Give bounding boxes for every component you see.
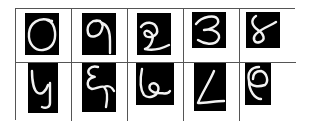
digit-cell — [184, 9, 240, 63]
digit-cell — [128, 63, 184, 121]
digit-cell — [128, 9, 184, 63]
digit-grid — [15, 8, 295, 120]
digit-cell — [184, 63, 240, 121]
digit-image-6 — [136, 63, 174, 105]
digit-cell — [16, 63, 72, 121]
digit-cell — [240, 9, 296, 63]
digit-cell — [72, 63, 128, 121]
digit-image-2 — [137, 13, 171, 55]
digit-image-3 — [192, 12, 226, 48]
digit-cell — [240, 63, 296, 121]
digit-image-8 — [246, 12, 280, 48]
digit-cell — [16, 9, 72, 63]
digit-image-4 — [28, 63, 58, 113]
digit-image-8b — [82, 63, 116, 112]
digit-image-0 — [25, 13, 59, 55]
digit-image-9 — [82, 13, 116, 55]
digit-cell — [72, 9, 128, 63]
digit-image-1 — [194, 63, 226, 111]
digit-image-0b — [245, 63, 271, 105]
